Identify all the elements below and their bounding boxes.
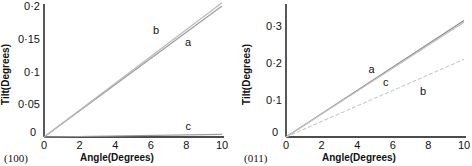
series-line-c bbox=[286, 22, 464, 137]
x-axis-label: Angle(Degrees) bbox=[80, 152, 154, 163]
chart-011: 024681000·10·20·3Tilt(Degrees)Angle(Degr… bbox=[236, 0, 472, 166]
x-tick-label: 10 bbox=[458, 139, 470, 151]
x-axis-label: Angle(Degrees) bbox=[322, 152, 396, 163]
axes bbox=[286, 4, 466, 137]
x-tick-label: 0 bbox=[41, 139, 47, 151]
y-tick-label: 0·1 bbox=[24, 66, 40, 78]
series-label-c: c bbox=[383, 76, 389, 88]
x-tick-label: 10 bbox=[216, 139, 228, 151]
y-tick-label: 0·15 bbox=[18, 33, 40, 45]
y-tick-label: 0·05 bbox=[18, 98, 40, 110]
y-tick-label: 0·2 bbox=[24, 0, 40, 12]
series-label-a: a bbox=[368, 63, 375, 75]
x-tick-label: 0 bbox=[283, 139, 289, 151]
chart-panel-100: 024681000·050·10·150·2Tilt(Degrees)Angle… bbox=[0, 0, 236, 166]
x-tick-label: 4 bbox=[112, 139, 118, 151]
y-axis-label: Tilt(Degrees) bbox=[241, 44, 252, 105]
x-tick-label: 2 bbox=[319, 139, 325, 151]
chart-panel-011: 024681000·10·20·3Tilt(Degrees)Angle(Degr… bbox=[236, 0, 472, 166]
x-tick-label: 8 bbox=[425, 139, 431, 151]
series-label-b: b bbox=[153, 24, 159, 36]
panel-label: (100) bbox=[4, 152, 28, 165]
chart-100: 024681000·050·10·150·2Tilt(Degrees)Angle… bbox=[0, 0, 236, 166]
x-tick-label: 6 bbox=[390, 139, 396, 151]
x-tick-label: 4 bbox=[354, 139, 360, 151]
series-line-b bbox=[286, 59, 464, 137]
y-tick-label: 0 bbox=[30, 126, 36, 138]
series-label-b: b bbox=[420, 85, 426, 97]
x-tick-label: 6 bbox=[148, 139, 154, 151]
y-axis-label: Tilt(Degrees) bbox=[0, 44, 11, 105]
series-label-a: a bbox=[185, 36, 192, 48]
y-tick-label: 0·3 bbox=[266, 20, 282, 32]
y-tick-label: 0 bbox=[272, 126, 278, 138]
y-tick-label: 0·1 bbox=[266, 94, 282, 106]
y-tick-label: 0·2 bbox=[266, 57, 282, 69]
series-label-c: c bbox=[185, 120, 191, 132]
panel-label: (011) bbox=[244, 152, 268, 165]
x-tick-label: 8 bbox=[183, 139, 189, 151]
series-line-b bbox=[44, 3, 222, 137]
x-tick-label: 2 bbox=[77, 139, 83, 151]
